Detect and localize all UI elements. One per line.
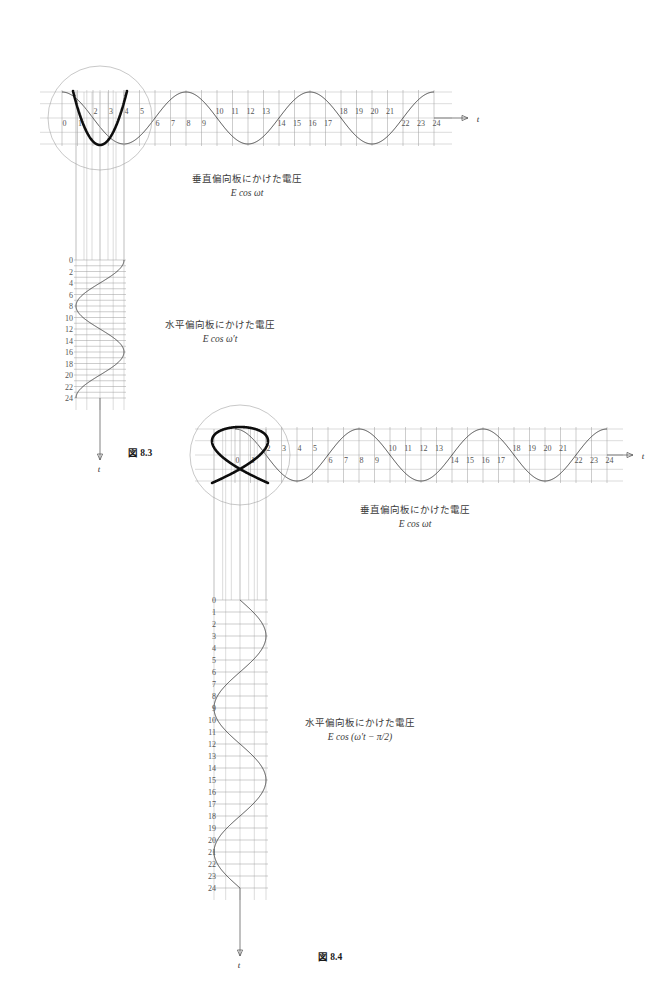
fig84-v-caption-jp: 水平偏向板にかけた電圧 bbox=[305, 717, 415, 728]
fig84-h-tick-label: 22 bbox=[575, 456, 583, 465]
fig83-v-tick-label: 6 bbox=[69, 291, 73, 300]
figures-canvas: t012345678910111213141516171819202122232… bbox=[0, 0, 662, 999]
fig84-v-tick-label: 11 bbox=[208, 728, 216, 737]
fig83-h-tick-label: 5 bbox=[140, 107, 144, 116]
fig84-h-tick-label: 23 bbox=[590, 456, 598, 465]
fig84-v-tick-label: 13 bbox=[208, 752, 216, 761]
fig83-h-caption-eq: E cos ωt bbox=[230, 188, 264, 198]
fig83-v-tick-label: 12 bbox=[65, 325, 73, 334]
fig84-h-tick-label: 6 bbox=[329, 456, 333, 465]
fig84-v-tick-label: 4 bbox=[212, 644, 216, 653]
fig83-h-tick-label: 3 bbox=[109, 107, 113, 116]
fig83-v-tick-label: 8 bbox=[69, 302, 73, 311]
fig84-v-tick-label: 20 bbox=[208, 836, 216, 845]
fig83-h-tick-label: 19 bbox=[355, 107, 363, 116]
fig83-v-tick-label: 20 bbox=[65, 371, 73, 380]
fig84-caption: 図 8.4 bbox=[318, 952, 343, 962]
fig83-v-caption-eq: E cos ω′t bbox=[202, 334, 238, 344]
fig83-v-tick-label: 22 bbox=[65, 383, 73, 392]
fig83-h-tick-label: 15 bbox=[293, 119, 301, 128]
fig84-h-tick-label: 5 bbox=[313, 444, 317, 453]
figure-page: t012345678910111213141516171819202122232… bbox=[0, 0, 662, 999]
fig83-v-tick-label: 2 bbox=[69, 268, 73, 277]
fig84-v-tick-label: 5 bbox=[212, 656, 216, 665]
fig84-v-tick-label: 8 bbox=[212, 692, 216, 701]
fig83-h-tick-label: 13 bbox=[262, 107, 270, 116]
fig84-h-tick-label: 13 bbox=[435, 444, 443, 453]
fig83-h-tick-label: 4 bbox=[125, 107, 129, 116]
fig83-v-axis-label: t bbox=[98, 464, 101, 474]
fig84-h-tick-label: 12 bbox=[420, 444, 428, 453]
fig84-h-tick-label: 0 bbox=[236, 456, 240, 465]
fig84-h-tick-label: 16 bbox=[482, 456, 490, 465]
fig84-v-tick-label: 16 bbox=[208, 788, 216, 797]
fig83-h-tick-label: 7 bbox=[171, 119, 175, 128]
fig84-h-tick-label: 11 bbox=[404, 444, 412, 453]
fig83-h-caption-jp: 垂直偏向板にかけた電圧 bbox=[192, 173, 302, 184]
fig83-h-tick-label: 11 bbox=[231, 107, 239, 116]
fig84-v-tick-label: 6 bbox=[212, 668, 216, 677]
fig83-v-tick-label: 16 bbox=[65, 348, 73, 357]
fig84-h-tick-label: 20 bbox=[544, 444, 552, 453]
fig83-v-tick-label: 4 bbox=[69, 279, 73, 288]
fig84-h-tick-label: 8 bbox=[360, 456, 364, 465]
fig83-h-tick-label: 23 bbox=[417, 119, 425, 128]
fig84-h-tick-label: 3 bbox=[282, 444, 286, 453]
fig84-v-tick-label: 17 bbox=[208, 800, 216, 809]
fig84-h-tick-label: 14 bbox=[451, 456, 459, 465]
fig83-v-tick-label: 24 bbox=[65, 394, 73, 403]
fig84-h-axis-label: t bbox=[642, 451, 645, 461]
fig84-v-axis-label: t bbox=[238, 960, 241, 970]
fig83-h-tick-label: 10 bbox=[216, 107, 224, 116]
fig84-h-tick-label: 15 bbox=[466, 456, 474, 465]
fig84-v-tick-label: 9 bbox=[212, 704, 216, 713]
fig83-h-tick-label: 16 bbox=[309, 119, 317, 128]
fig83-h-tick-label: 8 bbox=[187, 119, 191, 128]
fig84-h-tick-label: 4 bbox=[298, 444, 302, 453]
fig84-v-tick-label: 24 bbox=[208, 884, 216, 893]
fig83-h-tick-label: 20 bbox=[371, 107, 379, 116]
fig84-h-tick-label: 17 bbox=[497, 456, 505, 465]
fig84-v-tick-label: 2 bbox=[212, 620, 216, 629]
fig84-v-tick-label: 22 bbox=[208, 860, 216, 869]
fig84-h-tick-label: 24 bbox=[606, 456, 614, 465]
fig84-v-tick-label: 21 bbox=[208, 848, 216, 857]
fig84-h-tick-label: 21 bbox=[559, 444, 567, 453]
fig83-h-tick-label: 17 bbox=[324, 119, 332, 128]
fig84-h-caption-eq: E cos ωt bbox=[398, 519, 432, 529]
fig83-v-tick-label: 14 bbox=[65, 337, 73, 346]
fig84-v-tick-label: 14 bbox=[208, 764, 216, 773]
fig84-v-tick-label: 3 bbox=[212, 632, 216, 641]
fig84-v-caption-eq: E cos (ω′t − π/2) bbox=[327, 732, 392, 743]
fig83-h-tick-label: 21 bbox=[386, 107, 394, 116]
fig84-v-tick-label: 19 bbox=[208, 824, 216, 833]
fig84-h-tick-label: 9 bbox=[375, 456, 379, 465]
fig83-h-axis-label: t bbox=[477, 114, 480, 124]
fig83-h-tick-label: 24 bbox=[433, 119, 441, 128]
fig84-h-caption-jp: 垂直偏向板にかけた電圧 bbox=[360, 504, 470, 515]
fig83-v-tick-label: 0 bbox=[69, 256, 73, 265]
fig83-h-tick-label: 2 bbox=[94, 107, 98, 116]
fig84-v-tick-label: 10 bbox=[208, 716, 216, 725]
fig83-caption: 図 8.3 bbox=[128, 448, 153, 458]
fig84-v-tick-label: 7 bbox=[212, 680, 216, 689]
fig83-h-tick-label: 9 bbox=[202, 119, 206, 128]
fig84-v-tick-label: 23 bbox=[208, 872, 216, 881]
fig83-h-tick-label: 0 bbox=[63, 119, 67, 128]
fig84-v-tick-label: 18 bbox=[208, 812, 216, 821]
fig83-v-caption-jp: 水平偏向板にかけた電圧 bbox=[165, 319, 275, 330]
fig83-h-tick-label: 14 bbox=[278, 119, 286, 128]
fig83-h-tick-label: 6 bbox=[156, 119, 160, 128]
fig83-h-tick-label: 22 bbox=[402, 119, 410, 128]
fig84-h-tick-label: 10 bbox=[389, 444, 397, 453]
fig83-v-tick-label: 10 bbox=[65, 314, 73, 323]
fig84-h-tick-label: 7 bbox=[344, 456, 348, 465]
fig84-v-tick-label: 15 bbox=[208, 776, 216, 785]
fig84-h-tick-label: 18 bbox=[513, 444, 521, 453]
fig84-v-tick-label: 12 bbox=[208, 740, 216, 749]
fig83-h-tick-label: 12 bbox=[247, 107, 255, 116]
fig84-h-tick-label: 19 bbox=[528, 444, 536, 453]
fig84-v-tick-label: 1 bbox=[212, 608, 216, 617]
fig83-v-tick-label: 18 bbox=[65, 360, 73, 369]
fig83-h-tick-label: 18 bbox=[340, 107, 348, 116]
